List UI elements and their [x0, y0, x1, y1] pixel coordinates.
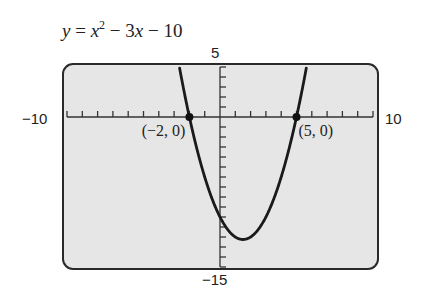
intercept-label: (5, 0) [299, 122, 334, 140]
intercept-label: (−2, 0) [142, 122, 186, 140]
graph-screen: (−2, 0)(5, 0) [0, 0, 429, 301]
intercept-dot [185, 113, 193, 121]
intercept-dot [293, 113, 301, 121]
